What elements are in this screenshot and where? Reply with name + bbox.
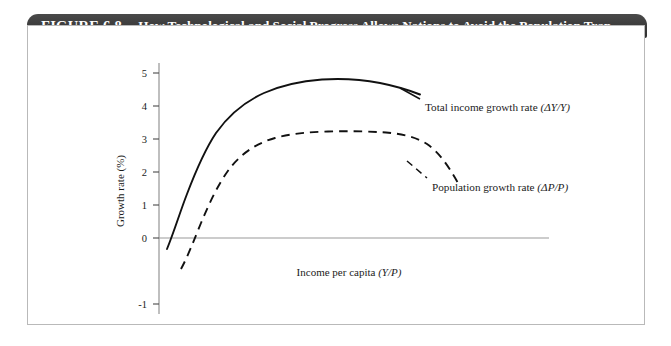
y-tick-label-5: 5: [142, 68, 147, 79]
y-tick-label-3: 3: [142, 134, 147, 145]
y-axis-title: Growth rate (%): [114, 155, 127, 227]
curve-population-growth-rate: [181, 131, 458, 269]
annotation-total-income-text: Total income growth rate: [425, 101, 540, 113]
y-tick-label-0: 0: [142, 233, 147, 244]
y-tick-label-2: 2: [142, 167, 147, 178]
annotation-population-text: Population growth rate: [432, 181, 537, 193]
y-tick-label-1: 1: [142, 200, 147, 211]
annotation-total-income-growth-rate: Total income growth rate (ΔY/Y): [425, 101, 570, 114]
curve-total-income-growth-rate: [167, 79, 420, 249]
growth-rate-chart-svg: 5 4 3 2 1 0 -1 Growth rate (%) Income pe…: [28, 26, 646, 326]
leader-line-population: [407, 161, 427, 178]
x-axis-title-symbol: (Y/P): [378, 266, 402, 279]
figure-panel: 5 4 3 2 1 0 -1 Growth rate (%) Income pe…: [27, 25, 645, 325]
y-tick-label-4: 4: [142, 101, 148, 112]
x-axis-title: Income per capita (Y/P): [297, 266, 402, 279]
y-axis-ticks: [153, 73, 159, 304]
x-axis-title-text: Income per capita: [297, 266, 379, 278]
annotation-total-income-symbol: (ΔY/Y): [540, 101, 570, 114]
annotation-population-growth-rate: Population growth rate (ΔP/P): [432, 181, 568, 194]
annotation-population-symbol: (ΔP/P): [537, 181, 568, 194]
chart-plot-area: 5 4 3 2 1 0 -1 Growth rate (%) Income pe…: [28, 26, 646, 326]
y-tick-label-neg1: -1: [138, 299, 147, 310]
